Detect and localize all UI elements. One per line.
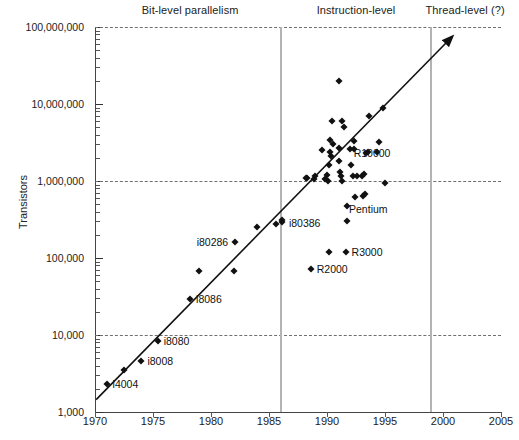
x-tick-mark — [211, 412, 212, 417]
y-tick-label: 100,000 — [0, 252, 84, 264]
annotation-i80386: i80386 — [289, 217, 321, 229]
era-label-instruction-level: Instruction-level — [317, 4, 396, 16]
x-tick-mark — [153, 412, 154, 417]
annotation-r3000: R3000 — [352, 246, 383, 258]
y-tick-label: 1,000,000 — [0, 175, 84, 187]
x-tick-mark — [95, 412, 96, 417]
x-tick-mark — [269, 412, 270, 417]
plot-area: i4004i8008i8080i8086i80286i80386R2000R30… — [95, 27, 501, 412]
annotation-i8086: i8086 — [196, 293, 222, 305]
x-tick-mark — [327, 412, 328, 417]
y-axis-title: Transistors — [17, 157, 29, 247]
annotation-pentium: Pentium — [349, 203, 388, 215]
era-label-thread-level: Thread-level (?) — [425, 4, 504, 16]
x-tick-mark — [385, 412, 386, 417]
annotation-i8080: i8080 — [164, 335, 190, 347]
transistor-count-chart: Bit-level parallelism Instruction-level … — [0, 0, 519, 440]
x-tick-mark — [501, 412, 502, 417]
annotation-i8008: i8008 — [147, 355, 173, 367]
x-axis-line — [95, 412, 501, 413]
annotation-r2000: R2000 — [317, 263, 348, 275]
annotation-i4004: i4004 — [113, 378, 139, 390]
annotation-r10000: R10000 — [354, 147, 391, 159]
x-tick-mark — [443, 412, 444, 417]
y-tick-mark — [96, 412, 103, 413]
y-tick-label: 10,000,000 — [0, 98, 84, 110]
era-label-bit-level: Bit-level parallelism — [142, 4, 239, 16]
y-tick-label: 10,000 — [0, 329, 84, 341]
annotation-i80286: i80286 — [197, 236, 229, 248]
y-tick-label: 1,000 — [0, 406, 84, 418]
y-tick-label: 100,000,000 — [0, 21, 84, 33]
